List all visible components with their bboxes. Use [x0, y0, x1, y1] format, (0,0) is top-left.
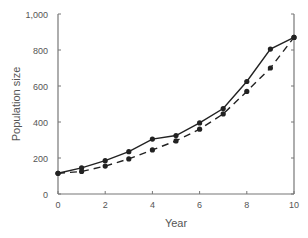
x-tick-label: 4	[150, 200, 155, 210]
data-point-marker	[268, 47, 273, 52]
x-tick-label: 10	[289, 200, 299, 210]
data-point-marker	[244, 89, 249, 94]
data-point-marker	[268, 65, 273, 70]
x-tick-label: 6	[197, 200, 202, 210]
data-point-marker	[221, 106, 226, 111]
data-point-marker	[173, 133, 178, 138]
axes: 02004006008001,0000246810	[25, 10, 299, 211]
population-line-chart: 02004006008001,0000246810 Year Populatio…	[0, 0, 308, 238]
x-tick-label: 2	[103, 200, 108, 210]
y-tick-label: 800	[33, 46, 48, 56]
series-line-dashed	[58, 37, 294, 173]
data-point-marker	[126, 149, 131, 154]
data-point-marker	[197, 127, 202, 132]
y-tick-label: 400	[33, 118, 48, 128]
y-tick-label: 200	[33, 154, 48, 164]
data-point-marker	[150, 137, 155, 142]
data-point-marker	[173, 138, 178, 143]
data-point-marker	[244, 79, 249, 84]
x-tick-label: 0	[55, 200, 60, 210]
data-point-marker	[79, 169, 84, 174]
y-tick-label: 1,000	[25, 10, 48, 20]
data-point-marker	[150, 147, 155, 152]
series-group	[55, 35, 296, 176]
data-point-marker	[103, 158, 108, 163]
data-point-marker	[197, 120, 202, 125]
data-point-marker	[291, 35, 296, 40]
series-line-solid	[58, 37, 294, 173]
y-tick-label: 600	[33, 82, 48, 92]
data-point-marker	[221, 111, 226, 116]
data-point-marker	[126, 156, 131, 161]
data-point-marker	[55, 171, 60, 176]
y-tick-label: 0	[43, 190, 48, 200]
data-point-marker	[103, 164, 108, 169]
x-axis-label: Year	[165, 217, 188, 229]
y-axis-label: Population size	[10, 67, 22, 142]
x-tick-label: 8	[244, 200, 249, 210]
